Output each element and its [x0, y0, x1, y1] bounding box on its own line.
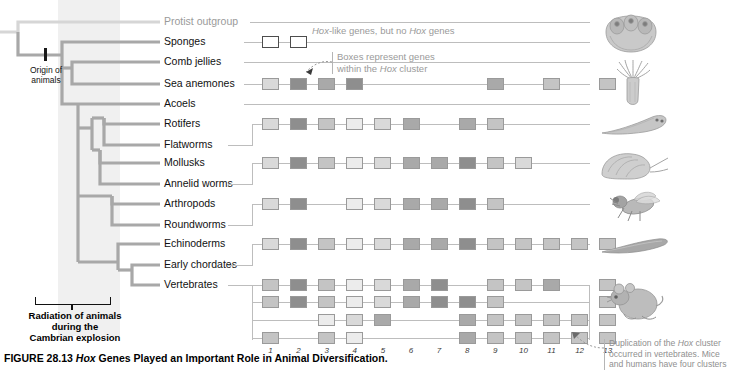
duplication-line3: and humans have four clusters [609, 359, 727, 369]
organism-sea-anemone [612, 58, 654, 108]
duplication-line1-italic: Hox [678, 338, 693, 348]
organism-fly [604, 190, 666, 224]
hox-like-post: genes [426, 25, 455, 36]
organism-mouse [606, 278, 664, 322]
organism-lancelet [600, 236, 672, 258]
boxes-line2-pre: within the [337, 63, 380, 74]
annotation-boxes-arrow [292, 58, 336, 80]
gene-column-number: 9 [487, 346, 504, 355]
figure-caption: FIGURE 28.13 Hox Genes Played an Importa… [4, 352, 388, 364]
organism-mollusk [598, 148, 670, 182]
figure-number: FIGURE 28.13 [4, 352, 73, 364]
gene-column-number: 6 [403, 346, 420, 355]
figure-title-rest: Genes Played an Important Role in Animal… [96, 352, 388, 364]
annotation-boxes-represent-genes: Boxes represent genes within the Hox clu… [337, 51, 435, 74]
figure-title-italic: Hox [76, 352, 96, 364]
duplication-line1-post: cluster [693, 338, 721, 348]
annotation-duplication-arrow [556, 326, 608, 352]
hox-like-italic-1: Hox [312, 25, 329, 36]
organism-flatworm [600, 112, 668, 138]
gene-column-number: 10 [515, 346, 532, 355]
gene-column-number: 8 [459, 346, 476, 355]
boxes-line1: Boxes represent genes [337, 51, 435, 62]
hox-like-italic-2: Hox [409, 25, 426, 36]
duplication-line2: occurred in vertebrates. Mice [609, 349, 720, 359]
boxes-line2-italic: Hox [380, 63, 397, 74]
duplication-line1-pre: Duplication of the [609, 338, 678, 348]
annotation-hox-like-genes: Hox-like genes, but no Hox genes [312, 25, 455, 37]
gene-column-number: 7 [431, 346, 448, 355]
hox-like-mid: -like genes, but no [329, 25, 409, 36]
organism-sponge [600, 14, 662, 54]
boxes-line2-post: cluster [397, 63, 428, 74]
figure-28-13: Origin of animals Protist outgroup Spong… [0, 0, 730, 372]
annotation-hox-duplication: Duplication of the Hox cluster occurred … [609, 338, 727, 370]
